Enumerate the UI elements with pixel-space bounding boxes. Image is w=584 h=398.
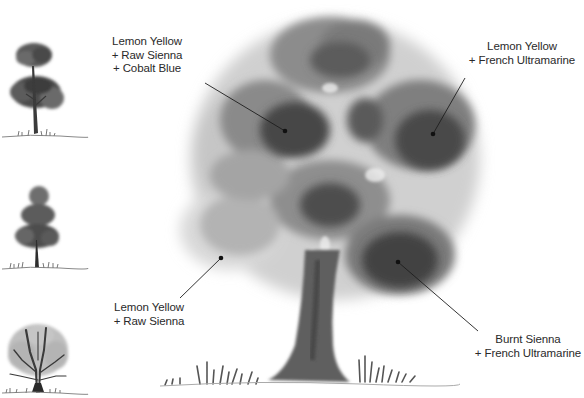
callout-line: Lemon Yellow	[97, 35, 197, 49]
callout-top-right: Lemon Yellow + French Ultramarine	[466, 40, 578, 67]
callout-line: + Raw Sienna	[97, 49, 197, 63]
callout-line: + Raw Sienna	[99, 315, 199, 329]
callout-bottom-right: Burnt Sienna + French Ultramarine	[472, 333, 584, 360]
callout-bottom-left: Lemon Yellow + Raw Sienna	[99, 301, 199, 328]
main-tree	[160, 17, 480, 386]
callout-line: Lemon Yellow	[466, 40, 578, 54]
callout-line: + French Ultramarine	[466, 54, 578, 68]
callout-top-left: Lemon Yellow + Raw Sienna + Cobalt Blue	[97, 35, 197, 76]
callout-line: + Cobalt Blue	[97, 62, 197, 76]
callout-line: + French Ultramarine	[472, 347, 584, 361]
small-tree-1	[2, 43, 88, 137]
small-tree-3	[2, 324, 88, 394]
callout-line: Burnt Sienna	[472, 333, 584, 347]
callout-line: Lemon Yellow	[99, 301, 199, 315]
small-tree-2	[2, 186, 88, 269]
